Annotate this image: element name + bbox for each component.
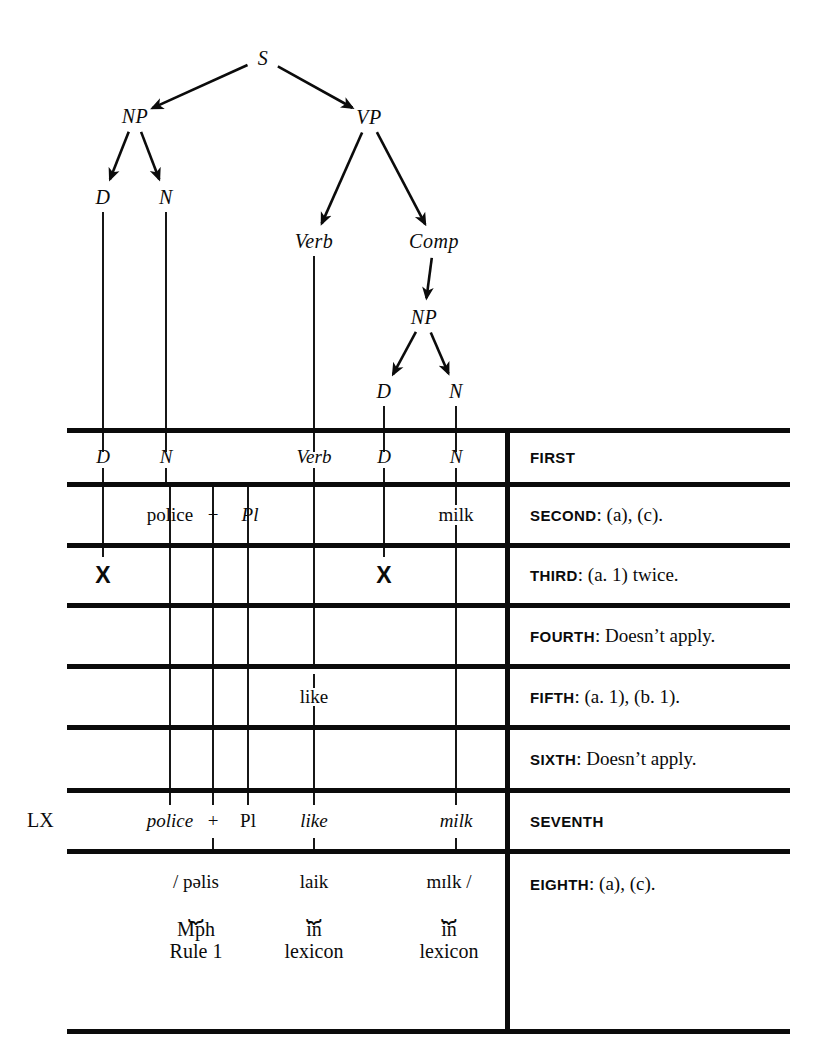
- tree-node-np1: NP: [122, 105, 149, 128]
- table-cell-seventh-4: milk: [440, 810, 473, 832]
- table-cell-second-3: milk: [439, 504, 474, 526]
- rule-ordinal-first: FIRST: [530, 449, 575, 466]
- tree-node-comp: Comp: [409, 230, 459, 253]
- tree-edge-vp-verb: [322, 133, 362, 224]
- tree-node-verb: Verb: [295, 230, 334, 253]
- tree-edge-np2-n2: [431, 333, 449, 374]
- rule-ordinal-fourth: FOURTH: [530, 628, 595, 645]
- brace-caption-line: Mph: [170, 918, 223, 940]
- table-column-divider: [505, 430, 510, 1031]
- rule-label-fifth: FIFTH: (a. 1), (b. 1).: [530, 686, 680, 708]
- tree-edge-np1-d1: [110, 132, 129, 180]
- table-hrule-0: [67, 428, 790, 433]
- brace-caption-line: lexicon: [420, 940, 479, 962]
- tree-node-n1: N: [159, 186, 173, 209]
- table-hrule-1: [67, 482, 790, 487]
- lx-marker-text: LX: [27, 809, 54, 832]
- figure-strokes: [0, 0, 829, 1051]
- rule-label-third: THIRD: (a. 1) twice.: [530, 564, 679, 586]
- table-cell-seventh-2: Pl: [240, 810, 256, 832]
- tree-node-s: S: [258, 47, 269, 70]
- rule-note-fourth: : Doesn’t apply.: [595, 625, 715, 646]
- brace-caption-line: in: [420, 918, 479, 940]
- rule-note-second: : (a), (c).: [597, 504, 663, 525]
- tree-edge-np1-n1: [141, 132, 159, 179]
- rule-ordinal-eighth: EIGHTH: [530, 876, 589, 893]
- tree-node-d2: D: [377, 380, 392, 403]
- table-hrule-5: [67, 725, 790, 730]
- brace-caption-line: lexicon: [285, 940, 344, 962]
- tree-node-vp: VP: [356, 106, 381, 129]
- table-cell-second-0: police: [147, 504, 193, 526]
- brace-group-0: ⏟MphRule 1: [170, 902, 223, 963]
- table-hrule-6: [67, 788, 790, 793]
- tree-edge-s-vp: [278, 66, 353, 107]
- table-cell-first-4: N: [450, 446, 463, 468]
- rule-ordinal-third: THIRD: [530, 567, 578, 584]
- rule-label-eighth: EIGHTH: (a), (c).: [530, 873, 656, 895]
- underbrace-icon: ⏟: [170, 902, 223, 918]
- table-hrule-2: [67, 543, 790, 548]
- brace-caption-line: in: [285, 918, 344, 940]
- phonetic-2: mɪlk /: [427, 871, 472, 893]
- rule-note-sixth: : Doesn’t apply.: [576, 748, 696, 769]
- rule-ordinal-seventh: SEVENTH: [530, 813, 604, 830]
- table-cell-first-3: D: [377, 446, 391, 468]
- rule-ordinal-sixth: SIXTH: [530, 751, 576, 768]
- table-hrule-7: [67, 849, 790, 854]
- table-hrule-8: [67, 1029, 790, 1034]
- table-hrule-3: [67, 603, 790, 608]
- tree-node-np2: NP: [411, 306, 438, 329]
- underbrace-icon: ⏟: [420, 902, 479, 918]
- table-cell-third-1: X: [376, 562, 391, 589]
- table-cell-third-0: X: [95, 562, 110, 589]
- rule-note-eighth: : (a), (c).: [589, 873, 655, 894]
- table-hrule-4: [67, 664, 790, 669]
- phonetic-1: laik: [300, 871, 329, 893]
- brace-caption-line: Rule 1: [170, 940, 223, 962]
- tree-node-n2: N: [449, 380, 463, 403]
- rule-ordinal-fifth: FIFTH: [530, 689, 575, 706]
- table-cell-seventh-0: police: [147, 810, 193, 832]
- rule-label-sixth: SIXTH: Doesn’t apply.: [530, 748, 697, 770]
- rule-note-third: : (a. 1) twice.: [578, 564, 679, 585]
- rule-label-first: FIRST: [530, 446, 575, 468]
- underbrace-icon: ⏟: [285, 902, 344, 918]
- tree-edge-s-np1: [152, 65, 247, 108]
- rule-label-fourth: FOURTH: Doesn’t apply.: [530, 625, 715, 647]
- tree-edge-vp-comp: [377, 132, 425, 224]
- rule-label-seventh: SEVENTH: [530, 810, 604, 832]
- rule-ordinal-second: SECOND: [530, 507, 597, 524]
- table-cell-second-1: +: [208, 504, 219, 526]
- figure-canvas: SNPVPDNVerbCompNPDN DNVerbDNpolice+Plmil…: [0, 0, 829, 1051]
- table-cell-seventh-3: like: [300, 810, 327, 832]
- table-cell-first-2: Verb: [297, 446, 332, 468]
- tree-node-d1: D: [96, 186, 111, 209]
- brace-group-1: ⏟inlexicon: [285, 902, 344, 963]
- tree-edge-comp-np2: [426, 258, 431, 298]
- table-cell-second-2: Pl: [242, 504, 259, 526]
- table-cell-seventh-1: +: [208, 810, 219, 832]
- tree-edge-np2-d2: [393, 332, 416, 374]
- rule-label-second: SECOND: (a), (c).: [530, 504, 663, 526]
- table-cell-first-1: N: [160, 446, 173, 468]
- table-cell-fifth-0: like: [300, 686, 329, 708]
- rule-note-fifth: : (a. 1), (b. 1).: [575, 686, 681, 707]
- phonetic-0: / pəlis: [173, 871, 219, 893]
- brace-group-2: ⏟inlexicon: [420, 902, 479, 963]
- table-cell-first-0: D: [96, 446, 110, 468]
